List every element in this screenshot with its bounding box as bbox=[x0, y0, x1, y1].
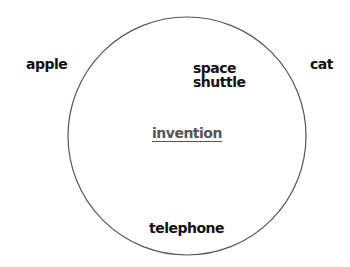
outside-item-cat: cat bbox=[310, 57, 333, 71]
inside-item-telephone: telephone bbox=[149, 221, 224, 235]
inside-item-space-shuttle-line1: space bbox=[193, 61, 245, 75]
outside-item-apple: apple bbox=[26, 57, 67, 71]
inside-item-space-shuttle: space shuttle bbox=[193, 61, 245, 89]
center-concept-label: invention bbox=[152, 126, 222, 140]
inside-item-space-shuttle-line2: shuttle bbox=[193, 75, 245, 89]
